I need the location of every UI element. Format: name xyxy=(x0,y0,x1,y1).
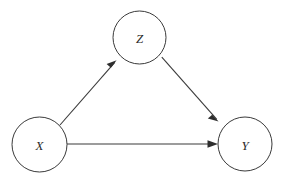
edge-z-to-y-line xyxy=(162,57,217,119)
edge-x-to-z-line xyxy=(60,62,115,125)
node-z[interactable]: Z xyxy=(113,11,166,64)
edge-x-to-y xyxy=(67,140,218,148)
edge-x-to-z-arrowhead xyxy=(107,60,117,67)
edge-x-to-y-arrowhead xyxy=(208,140,219,148)
edge-z-to-y xyxy=(162,57,219,121)
node-z-label: Z xyxy=(136,31,144,46)
node-x[interactable]: X xyxy=(12,117,67,172)
node-x-label: X xyxy=(35,138,45,153)
dag-canvas: X Z Y xyxy=(0,0,282,183)
node-y[interactable]: Y xyxy=(218,117,272,171)
edge-x-to-z xyxy=(60,60,117,125)
causal-dag-figure: X Z Y xyxy=(0,0,282,183)
